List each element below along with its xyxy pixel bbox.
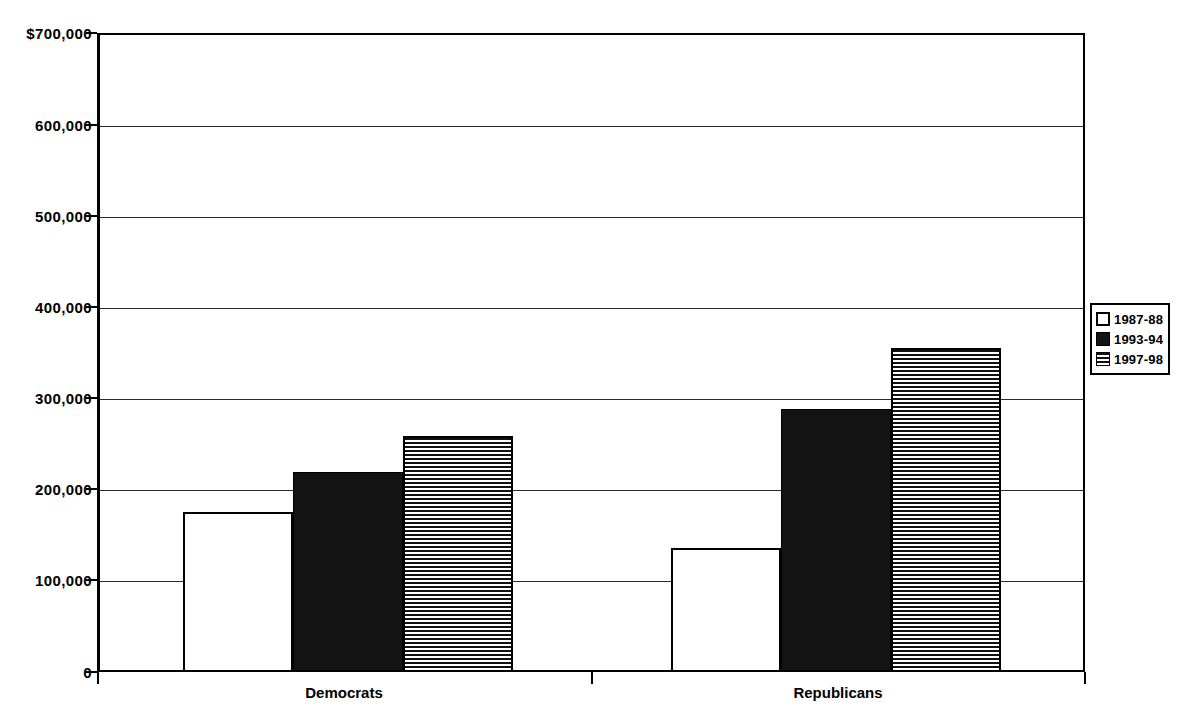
bar-republicans-1987-88 <box>671 548 781 670</box>
y-tick-mark <box>86 215 97 217</box>
legend-item-1987-88: 1987-88 <box>1096 309 1163 329</box>
plot-area <box>97 33 1085 672</box>
legend-item-label: 1987-88 <box>1114 312 1163 327</box>
x-category-label-democrats: Democrats <box>305 684 383 701</box>
y-tick-label-200000: 200,000 <box>35 481 92 498</box>
gridline-600000 <box>100 126 1083 127</box>
y-tick-mark <box>86 671 97 673</box>
x-category-label-republicans: Republicans <box>793 684 882 701</box>
y-tick-mark <box>86 579 97 581</box>
gridline-400000 <box>100 308 1083 309</box>
y-tick-label-600000: 600,000 <box>35 117 92 134</box>
y-tick-label-500000: 500,000 <box>35 208 92 225</box>
bar-democrats-1997-98 <box>403 436 513 670</box>
y-tick-mark <box>86 124 97 126</box>
y-tick-mark <box>86 32 97 34</box>
x-tick-mark <box>97 672 99 684</box>
x-tick-mark <box>591 672 593 684</box>
y-tick-mark <box>86 397 97 399</box>
legend-item-1993-94: 1993-94 <box>1096 329 1163 349</box>
legend-item-label: 1997-98 <box>1114 352 1163 367</box>
y-tick-label-700000: $700,000 <box>26 25 92 42</box>
y-tick-label-400000: 400,000 <box>35 299 92 316</box>
striped-square-icon <box>1096 352 1110 366</box>
y-tick-mark <box>86 488 97 490</box>
legend: 1987-88 1993-94 1997-98 <box>1090 303 1170 375</box>
legend-item-label: 1993-94 <box>1114 332 1163 347</box>
bar-republicans-1993-94 <box>781 409 891 670</box>
y-tick-label-300000: 300,000 <box>35 390 92 407</box>
bar-democrats-1987-88 <box>183 512 293 670</box>
y-tick-mark <box>86 306 97 308</box>
legend-item-1997-98: 1997-98 <box>1096 349 1163 369</box>
bar-chart: $700,000 600,000 500,000 400,000 300,000… <box>0 0 1200 727</box>
gridline-500000 <box>100 217 1083 218</box>
bar-republicans-1997-98 <box>891 348 1001 670</box>
x-tick-mark <box>1084 672 1086 684</box>
bar-democrats-1993-94 <box>293 472 403 670</box>
white-square-icon <box>1096 312 1110 326</box>
black-square-icon <box>1096 332 1110 346</box>
y-tick-label-100000: 100,000 <box>35 572 92 589</box>
